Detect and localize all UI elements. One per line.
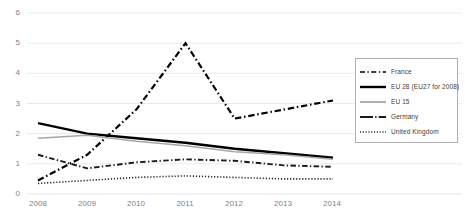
legend-item-eu28[interactable]: EU 28 (EU27 for 2008) xyxy=(360,79,453,94)
legend-swatch xyxy=(360,126,386,138)
series-line-eu-28-eu27-for-2008 xyxy=(38,123,333,158)
legend-label: United Kingdom xyxy=(391,128,439,135)
legend-item-eu15[interactable]: EU 15 xyxy=(360,94,453,109)
series-line-united-kingdom xyxy=(38,176,333,184)
legend-label: France xyxy=(391,68,412,75)
legend-swatch xyxy=(360,96,386,108)
line-chart: 6 5 4 3 2 1 0 2008 2009 2010 2011 2012 2… xyxy=(0,0,465,218)
legend-swatch xyxy=(360,81,386,93)
series-lines xyxy=(38,43,333,183)
series-line-eu-15 xyxy=(38,135,333,159)
series-line-france xyxy=(38,43,333,180)
legend-item-united-kingdom[interactable]: United Kingdom xyxy=(360,124,453,139)
legend-swatch xyxy=(360,111,386,123)
legend-label: EU 15 xyxy=(391,98,410,105)
legend-label: Germany xyxy=(391,113,418,120)
legend-item-germany[interactable]: Germany xyxy=(360,109,453,124)
legend-label: EU 28 (EU27 for 2008) xyxy=(391,83,459,90)
legend-item-france[interactable]: France xyxy=(360,64,453,79)
legend-swatch xyxy=(360,66,386,78)
legend: France EU 28 (EU27 for 2008) EU 15 Germa… xyxy=(355,58,458,143)
